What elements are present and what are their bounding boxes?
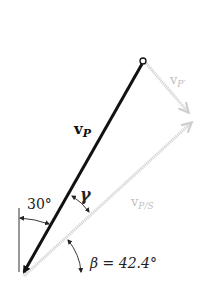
label-angle-beta: β = 42.4° xyxy=(89,255,157,271)
vector-v-p xyxy=(24,64,142,272)
label-angle-gamma: γ xyxy=(80,185,92,204)
label-v-p-prime: vP′ xyxy=(169,72,185,89)
label-v-p: vP xyxy=(73,120,92,140)
velocity-diagram: vP vP′ vP/S 30° γ β = 42.4° xyxy=(0,0,200,281)
pivot-circle xyxy=(140,58,146,64)
label-v-p-s: vP/S xyxy=(130,194,154,211)
angle-arc-beta xyxy=(68,240,81,272)
label-angle-30: 30° xyxy=(27,196,52,212)
angle-arc-30 xyxy=(20,218,49,224)
